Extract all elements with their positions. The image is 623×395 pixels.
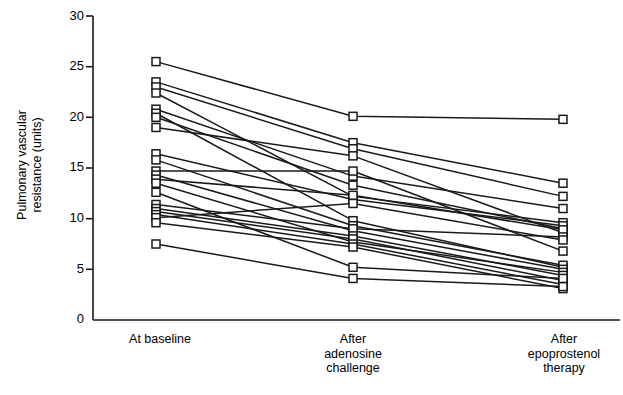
chart-figure: Pulmonary vascular resistance (units) 30… xyxy=(0,0,623,395)
data-point-marker xyxy=(152,179,160,187)
data-point-marker xyxy=(152,89,160,97)
data-point-marker xyxy=(349,199,357,207)
data-point-marker xyxy=(559,115,567,123)
data-point-marker xyxy=(152,156,160,164)
x-category-adenosine-line-2: adenosine xyxy=(298,347,408,362)
data-point-marker xyxy=(559,283,567,291)
data-point-marker xyxy=(349,181,357,189)
x-category-adenosine-line-3: challenge xyxy=(298,361,408,376)
data-point-marker xyxy=(559,205,567,213)
data-point-marker xyxy=(349,263,357,271)
x-category-epoprostenol-line-2: epoprostenol xyxy=(506,347,622,362)
data-point-marker xyxy=(152,219,160,227)
data-point-marker xyxy=(559,274,567,282)
data-point-marker xyxy=(349,191,357,199)
x-category-adenosine-line-1: After xyxy=(298,332,408,347)
x-category-epoprostenol-line-3: therapy xyxy=(506,361,622,376)
data-point-marker xyxy=(349,152,357,160)
x-category-baseline-line-1: At baseline xyxy=(105,332,215,347)
data-series-group xyxy=(152,58,567,293)
data-point-marker xyxy=(349,274,357,282)
plot-area xyxy=(0,0,623,340)
x-category-label-epoprostenol: After epoprostenol therapy xyxy=(506,332,622,376)
data-point-marker xyxy=(559,179,567,187)
data-point-marker xyxy=(152,240,160,248)
data-point-marker xyxy=(559,236,567,244)
data-point-marker xyxy=(559,247,567,255)
data-point-marker xyxy=(152,123,160,131)
data-point-marker xyxy=(152,188,160,196)
series-line xyxy=(152,179,567,276)
data-point-marker xyxy=(152,113,160,121)
x-category-epoprostenol-line-1: After xyxy=(506,332,622,347)
data-point-marker xyxy=(152,58,160,66)
series-line xyxy=(152,109,567,271)
data-point-marker xyxy=(559,192,567,200)
x-category-label-baseline: At baseline xyxy=(105,332,215,347)
data-point-marker xyxy=(349,243,357,251)
series-line xyxy=(152,58,567,124)
data-point-marker xyxy=(349,112,357,120)
x-category-label-adenosine: After adenosine challenge xyxy=(298,332,408,376)
data-point-marker xyxy=(349,167,357,175)
series-line xyxy=(152,150,567,230)
